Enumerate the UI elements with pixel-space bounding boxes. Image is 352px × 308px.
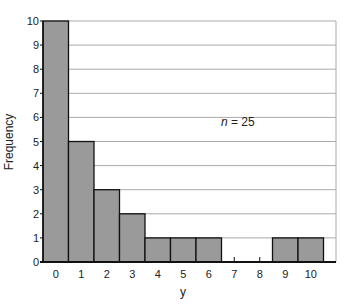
- x-tick-label: 9: [282, 268, 288, 280]
- x-tick-label: 3: [129, 268, 135, 280]
- histogram-bar: [298, 238, 324, 262]
- x-tick-label: 8: [257, 268, 263, 280]
- y-tick-label: 6: [33, 111, 39, 123]
- y-tick-label: 1: [33, 232, 39, 244]
- x-tick-label: 6: [206, 268, 212, 280]
- y-tick-label: 9: [33, 39, 39, 51]
- x-tick-label: 0: [53, 268, 59, 280]
- sample-size-annotation: n = 25: [221, 115, 255, 129]
- histogram-bar: [43, 21, 69, 262]
- y-tick-label: 0: [33, 256, 39, 268]
- y-tick-labels: 012345678910: [27, 15, 39, 268]
- x-axis-label: y: [180, 285, 186, 299]
- histogram-bar: [273, 238, 299, 262]
- histogram-bar: [145, 238, 171, 262]
- y-tick-label: 5: [33, 136, 39, 148]
- y-tick-label: 3: [33, 184, 39, 196]
- y-tick-label: 2: [33, 208, 39, 220]
- histogram-chart: 012345678910 012345678910 y Frequency n …: [0, 0, 352, 308]
- x-tick-label: 7: [231, 268, 237, 280]
- histogram-bar: [120, 214, 146, 262]
- x-tick-labels: 012345678910: [53, 268, 317, 280]
- histogram-bar: [171, 238, 197, 262]
- y-axis-label: Frequency: [2, 114, 16, 171]
- x-tick-label: 10: [305, 268, 317, 280]
- y-tick-label: 7: [33, 87, 39, 99]
- histogram-bar: [94, 190, 120, 262]
- x-tick-label: 4: [155, 268, 161, 280]
- y-tick-label: 10: [27, 15, 39, 27]
- x-tick-label: 2: [104, 268, 110, 280]
- y-tick-label: 4: [33, 160, 39, 172]
- y-tick-label: 8: [33, 63, 39, 75]
- x-tick-label: 5: [180, 268, 186, 280]
- x-tick-label: 1: [78, 268, 84, 280]
- histogram-bar: [196, 238, 222, 262]
- histogram-bar: [69, 142, 95, 263]
